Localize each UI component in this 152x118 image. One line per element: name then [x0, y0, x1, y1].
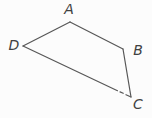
- vertex-label-a: A: [64, 2, 74, 16]
- geometry-figure: A B C D: [0, 0, 152, 118]
- quadrilateral-svg: [0, 0, 152, 118]
- vertex-label-d: D: [9, 38, 20, 52]
- vertex-label-b: B: [133, 43, 143, 57]
- vertex-label-c: C: [133, 97, 143, 111]
